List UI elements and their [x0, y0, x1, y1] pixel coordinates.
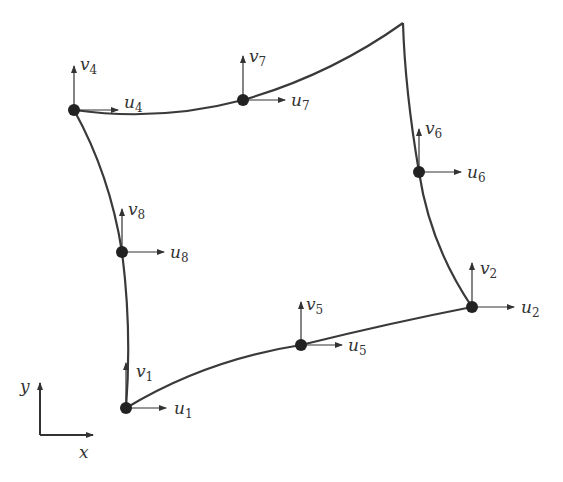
u6-label: u6 [467, 162, 486, 185]
u2-label: u2 [521, 297, 540, 320]
x-axis-label: x [79, 442, 89, 462]
edge-right [403, 23, 472, 307]
node-dot [295, 339, 307, 351]
u5-label: u5 [348, 335, 367, 358]
v5-label: v5 [306, 294, 323, 317]
node-dot [237, 94, 249, 106]
v8-label: v8 [128, 199, 145, 222]
node-6: v6 u6 [413, 118, 486, 185]
u1-label: u1 [174, 398, 193, 421]
y-axis-label: y [19, 376, 30, 396]
node-dot [413, 166, 425, 178]
v4-label: v4 [80, 54, 98, 77]
u8-label: u8 [170, 242, 189, 265]
node-2: v2 u2 [466, 258, 540, 320]
v2-label: v2 [480, 258, 497, 281]
v6-label: v6 [425, 118, 442, 141]
edge-left [74, 110, 128, 408]
v7-label: v7 [249, 46, 266, 69]
node-8: v8 u8 [116, 199, 189, 265]
node-4: v4 u4 [68, 54, 143, 116]
coordinate-axes: y x [19, 376, 93, 462]
node-dot [68, 104, 80, 116]
element-diagram: v1 u1 v2 u2 v4 u4 v5 u5 v6 u6 v7 [0, 0, 563, 482]
v1-label: v1 [136, 361, 153, 384]
u4-label: u4 [124, 92, 143, 115]
node-dot [466, 301, 478, 313]
node-dot [120, 402, 132, 414]
node-5: v5 u5 [295, 294, 367, 358]
u7-label: u7 [291, 90, 310, 113]
edge-bottom [126, 307, 472, 408]
node-dot [116, 246, 128, 258]
